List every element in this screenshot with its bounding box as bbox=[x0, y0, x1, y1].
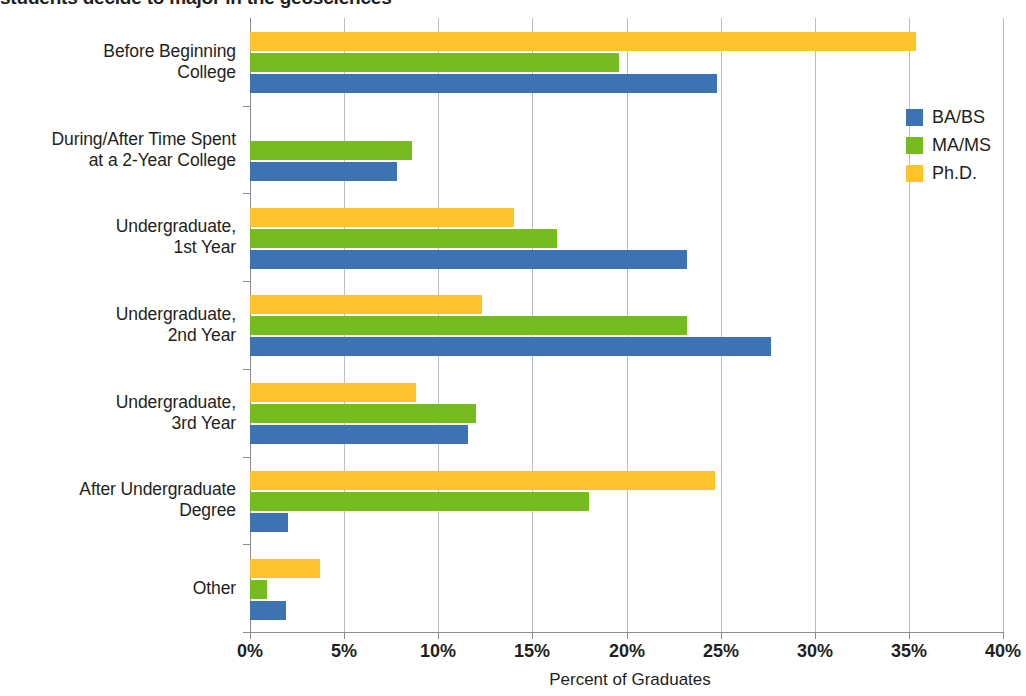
bar-ph bbox=[250, 559, 320, 578]
bar-ph bbox=[250, 295, 482, 314]
bar-ba bbox=[250, 74, 717, 93]
bar-ba bbox=[250, 337, 771, 356]
bar-group: Undergraduate,1st Year bbox=[0, 193, 1026, 281]
x-axis-tick-label: 15% bbox=[497, 641, 567, 662]
x-axis-tick bbox=[721, 632, 722, 639]
category-label: Other bbox=[0, 578, 236, 599]
bar-ph bbox=[250, 471, 715, 490]
category-label: Undergraduate,3rd Year bbox=[0, 392, 236, 434]
x-axis-tick bbox=[532, 632, 533, 639]
x-axis-title: Percent of Graduates bbox=[0, 670, 1026, 690]
bar-group: Other bbox=[0, 544, 1026, 632]
bar-group: Undergraduate,2nd Year bbox=[0, 281, 1026, 369]
bar-ma bbox=[250, 492, 589, 511]
x-axis-tick-label: 10% bbox=[403, 641, 473, 662]
category-label-line: Undergraduate, bbox=[0, 216, 236, 237]
y-axis-tick bbox=[243, 632, 250, 633]
category-label: Undergraduate,1st Year bbox=[0, 216, 236, 258]
bar-ba bbox=[250, 601, 286, 620]
x-axis-tick-label: 40% bbox=[968, 641, 1026, 662]
bar-ma bbox=[250, 580, 267, 599]
x-axis-tick bbox=[438, 632, 439, 639]
category-label-line: Before Beginning bbox=[0, 41, 236, 62]
category-label-line: 3rd Year bbox=[0, 413, 236, 434]
bar-ma bbox=[250, 404, 476, 423]
category-label-line: After Undergraduate bbox=[0, 479, 236, 500]
category-label: After UndergraduateDegree bbox=[0, 479, 236, 521]
category-label-line: Undergraduate, bbox=[0, 304, 236, 325]
bar-ma bbox=[250, 229, 557, 248]
bar-chart: Percent of Graduates BA/BS MA/MS Ph.D. 0… bbox=[0, 0, 1026, 696]
bar-group: Undergraduate,3rd Year bbox=[0, 369, 1026, 457]
bar-ba bbox=[250, 162, 397, 181]
category-label-line: Degree bbox=[0, 500, 236, 521]
category-label-line: Undergraduate, bbox=[0, 392, 236, 413]
bar-ph bbox=[250, 32, 916, 51]
x-axis-title-text: Percent of Graduates bbox=[549, 670, 711, 689]
bar-group: Before BeginningCollege bbox=[0, 18, 1026, 106]
bar-ma bbox=[250, 141, 412, 160]
x-axis-tick bbox=[909, 632, 910, 639]
bar-ma bbox=[250, 316, 687, 335]
bar-ba bbox=[250, 250, 687, 269]
category-label-line: Other bbox=[0, 578, 236, 599]
x-axis-tick-label: 0% bbox=[215, 641, 285, 662]
category-label-line: 2nd Year bbox=[0, 325, 236, 346]
category-label: During/After Time Spentat a 2-Year Colle… bbox=[0, 129, 236, 171]
category-label: Undergraduate,2nd Year bbox=[0, 304, 236, 346]
category-label-line: 1st Year bbox=[0, 237, 236, 258]
bar-group: After UndergraduateDegree bbox=[0, 457, 1026, 545]
bar-ph bbox=[250, 208, 514, 227]
bar-ma bbox=[250, 53, 619, 72]
x-axis-tick-label: 25% bbox=[686, 641, 756, 662]
x-axis-tick bbox=[1003, 632, 1004, 639]
category-label-line: at a 2-Year College bbox=[0, 150, 236, 171]
category-label: Before BeginningCollege bbox=[0, 41, 236, 83]
x-axis-tick-label: 5% bbox=[309, 641, 379, 662]
category-label-line: College bbox=[0, 62, 236, 83]
x-axis-tick bbox=[250, 632, 251, 639]
category-label-line: During/After Time Spent bbox=[0, 129, 236, 150]
bar-group: During/After Time Spentat a 2-Year Colle… bbox=[0, 106, 1026, 194]
bar-ba bbox=[250, 513, 288, 532]
x-axis-tick-label: 35% bbox=[874, 641, 944, 662]
x-axis-tick bbox=[815, 632, 816, 639]
x-axis-tick-label: 20% bbox=[592, 641, 662, 662]
x-axis-tick bbox=[627, 632, 628, 639]
x-axis-tick-label: 30% bbox=[780, 641, 850, 662]
bar-ph bbox=[250, 383, 416, 402]
x-axis-tick bbox=[344, 632, 345, 639]
bar-ba bbox=[250, 425, 468, 444]
